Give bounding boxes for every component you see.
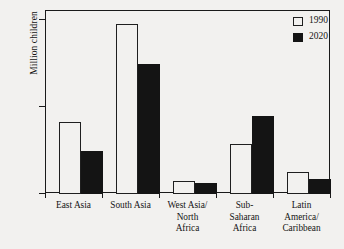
x-tick-mark-1 (102, 193, 103, 198)
legend-entry-1990: 1990 (293, 15, 328, 27)
bar-latin-america-caribbean-2020 (309, 179, 331, 194)
bar-west-asia-north-africa-1990 (173, 181, 195, 194)
x-category-label-east-asia: East Asia (45, 200, 102, 212)
x-tick-mark-3 (216, 193, 217, 198)
x-tick-mark-5 (330, 193, 331, 198)
x-category-label-south-asia: South Asia (102, 200, 159, 212)
legend-label-2020: 2020 (309, 32, 328, 42)
filled-square-icon (293, 33, 303, 42)
bar-south-asia-1990 (116, 24, 138, 194)
bar-south-asia-2020 (138, 64, 160, 194)
legend-entry-2020: 2020 (293, 31, 328, 43)
bar-east-asia-1990 (59, 122, 81, 194)
bar-sub-saharan-africa-1990 (230, 144, 252, 194)
bar-east-asia-2020 (81, 151, 103, 194)
x-category-label-west-asia-north-africa: West Asia/ North Africa (159, 200, 216, 235)
legend: 1990 2020 (293, 15, 328, 47)
hollow-square-icon (293, 17, 303, 26)
x-tick-mark-4 (273, 193, 274, 198)
x-category-label-sub-saharan-africa: Sub- Saharan Africa (216, 200, 273, 235)
x-tick-mark-2 (159, 193, 160, 198)
y-axis-label: Million children (29, 0, 39, 103)
legend-label-1990: 1990 (309, 16, 328, 26)
x-category-label-latin-america-caribbean: Latin America/ Caribbean (273, 200, 330, 235)
x-tick-mark-0 (45, 193, 46, 198)
bar-latin-america-caribbean-1990 (287, 172, 309, 194)
chart-figure: Million children 100 50 0 East Asia Sout… (0, 0, 344, 249)
bar-west-asia-north-africa-2020 (195, 183, 217, 194)
bar-sub-saharan-africa-2020 (252, 116, 274, 194)
